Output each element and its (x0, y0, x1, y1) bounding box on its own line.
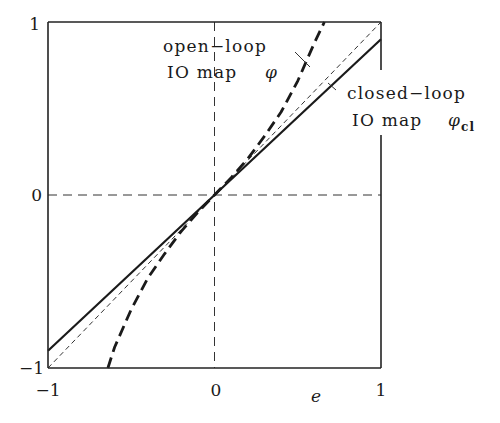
x-tick-neg: −1 (35, 380, 60, 400)
closed-loop-symbol: φcl (448, 110, 475, 134)
y-tick-pos: 1 (29, 14, 40, 34)
y-tick-neg: −1 (19, 358, 44, 378)
closed-loop-symbol-phi: φ (448, 110, 461, 130)
closed-loop-label-line1: closed−loop (347, 83, 466, 103)
x-axis-label: e (311, 386, 321, 406)
x-tick-pos: 1 (376, 380, 387, 400)
closed-loop-label-line2: IO map (352, 110, 422, 130)
open-loop-label-line2: IO map (167, 62, 237, 82)
closed-loop-subscript: cl (461, 120, 475, 134)
x-tick-zero: 0 (211, 380, 222, 400)
open-loop-leader-line (295, 52, 310, 67)
y-tick-zero: 0 (31, 185, 42, 205)
io-map-figure: 1 0 −1 −1 0 1 e open−loop IO map φ close… (0, 0, 500, 423)
open-loop-label-line1: open−loop (163, 36, 267, 56)
chart-svg: 1 0 −1 −1 0 1 e open−loop IO map φ close… (0, 0, 500, 423)
open-loop-symbol: φ (265, 62, 278, 82)
